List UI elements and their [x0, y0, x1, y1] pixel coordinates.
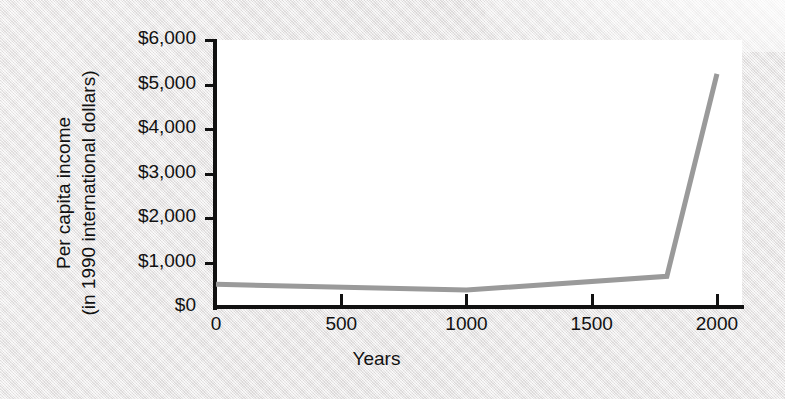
- y-axis-title: Per capita income (in 1990 international…: [24, 0, 364, 399]
- y-axis-title-line1: Per capita income: [51, 23, 76, 363]
- y-axis-title-line2: (in 1990 international dollars): [76, 23, 101, 363]
- x-tick-label-1000: 1000: [421, 313, 511, 335]
- x-tick-label-2000: 2000: [672, 313, 762, 335]
- x-tick-label-1500: 1500: [547, 313, 637, 335]
- x-tick-1500: [591, 294, 594, 306]
- y-axis-title-rotated: Per capita income (in 1990 international…: [51, 23, 101, 363]
- scanned-page-background: $0$1,000$2,000$3,000$4,000$5,000$6,000 0…: [0, 0, 785, 399]
- x-tick-1000: [465, 294, 468, 306]
- x-tick-2000: [716, 294, 719, 306]
- chart-figure: $0$1,000$2,000$3,000$4,000$5,000$6,000 0…: [0, 0, 785, 399]
